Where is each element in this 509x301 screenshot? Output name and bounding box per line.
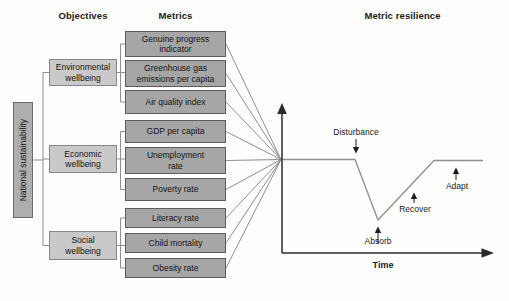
- metric-obesity-rate: Obesity rate: [125, 258, 226, 278]
- metrics-convergence-lines: [226, 44, 281, 268]
- adapt-label: Adapt: [425, 181, 489, 191]
- metric-child-mortality: Child mortality: [125, 233, 226, 253]
- metric-genuine-progress-indicator: Genuine progress indicator: [125, 31, 226, 57]
- root-to-objectives-connectors: [33, 73, 49, 246]
- objective-social-wellbeing: Social wellbeing: [49, 231, 117, 260]
- metric-gdp-per-capita: GDP per capita: [125, 120, 226, 143]
- metrics-header: Metrics: [125, 10, 226, 21]
- objectives-header: Objectives: [49, 10, 117, 21]
- metric-poverty-rate: Poverty rate: [125, 178, 226, 201]
- metric-literacy-rate: Literacy rate: [125, 208, 226, 228]
- time-axis-label: Time: [351, 260, 415, 270]
- absorb-label: Absorb: [346, 236, 410, 246]
- national-sustainability-node: National sustainability: [13, 102, 33, 218]
- metric-resilience-header: Metric resilience: [330, 10, 475, 21]
- metric-air-quality-index: Air quality index: [125, 90, 226, 114]
- objective-economic-wellbeing: Economic wellbeing: [49, 145, 117, 173]
- figure-sustainability-metric-resilience: Objectives Metrics Metric resilience Nat…: [0, 0, 509, 301]
- y-axis-arrowhead: [277, 103, 287, 114]
- metric-greenhouse-gas-emissions: Greenhouse gas emissions per capita: [125, 60, 226, 87]
- national-sustainability-label: National sustainability: [18, 119, 28, 201]
- metric-unemployment-rate: Unemployment rate: [125, 147, 226, 174]
- objectives-to-metrics-connectors: [117, 44, 125, 268]
- objective-environmental-wellbeing: Environmental wellbeing: [49, 59, 117, 86]
- recover-label: Recover: [383, 204, 447, 214]
- x-axis-arrowhead: [482, 248, 495, 258]
- disturbance-label: Disturbance: [324, 127, 388, 137]
